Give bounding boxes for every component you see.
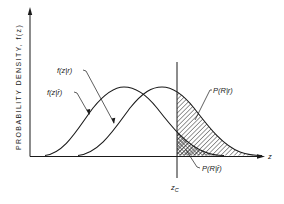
detection-leader bbox=[195, 90, 212, 120]
y-axis-label: PROBABILITY DENSITY, f(z) bbox=[15, 24, 23, 150]
detection-probability-region bbox=[78, 87, 262, 156]
false-alarm-label: P(R|r̄) bbox=[202, 164, 222, 173]
threshold-label: zC bbox=[170, 183, 179, 193]
signal-curve-label: f(z|r) bbox=[57, 66, 73, 75]
detection-probability-label: P(R|r) bbox=[213, 86, 233, 95]
x-axis-label: z bbox=[267, 152, 272, 161]
signal-density-curve bbox=[78, 87, 262, 156]
y-axis-arrow-icon bbox=[28, 7, 32, 15]
probability-density-diagram: PROBABILITY DENSITY, f(z) z zC f(z|r) f(… bbox=[0, 0, 284, 204]
signal-leader-arrow-icon bbox=[112, 118, 116, 124]
noise-curve-leader bbox=[74, 92, 89, 114]
noise-curve-label: f(z|r̄) bbox=[47, 88, 63, 97]
